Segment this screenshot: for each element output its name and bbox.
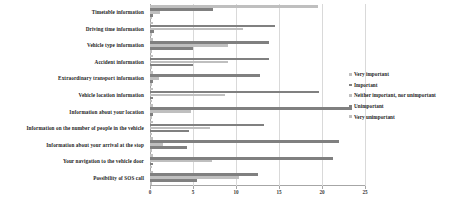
bar-group xyxy=(150,120,365,137)
legend-item[interactable]: Neither important, nor unimportant xyxy=(349,90,469,101)
bar xyxy=(150,146,187,149)
legend-label: Very unimportant xyxy=(354,114,395,120)
bar-group xyxy=(150,87,365,104)
axis-tick-label: 5 xyxy=(192,189,195,195)
axis-tick-label: 10 xyxy=(233,189,238,195)
category-label: Information about your arrival at the st… xyxy=(0,142,144,148)
bar xyxy=(150,182,152,185)
chart-legend: Very importantImportantNeither important… xyxy=(349,69,469,122)
legend-item[interactable]: Very important xyxy=(349,69,469,80)
legend-swatch-icon xyxy=(349,115,352,118)
bar xyxy=(150,149,152,152)
category-axis-labels: Timetable informationDriving time inform… xyxy=(0,4,147,186)
bar-group xyxy=(150,21,365,38)
bar-group xyxy=(150,54,365,71)
axis-tick-label: 0 xyxy=(149,189,152,195)
legend-item[interactable]: Important xyxy=(349,80,469,91)
bar-group xyxy=(150,70,365,87)
legend-item[interactable]: Unimportant xyxy=(349,101,469,112)
legend-label: Unimportant xyxy=(354,103,384,109)
bar xyxy=(150,116,152,119)
bar xyxy=(150,28,243,31)
category-label: Possibility of SOS call xyxy=(0,175,144,181)
category-label: Vehicle type information xyxy=(0,42,144,48)
category-label: Information about your location xyxy=(0,109,144,115)
bar-group xyxy=(150,153,365,170)
legend-swatch-icon xyxy=(349,94,352,97)
bar xyxy=(150,83,152,86)
bar-group xyxy=(150,169,365,186)
category-label: Extraordinary transport information xyxy=(0,75,144,81)
category-label: Information on the number of people in t… xyxy=(0,125,144,131)
legend-label: Very important xyxy=(354,71,389,77)
bar xyxy=(150,17,152,20)
category-label: Driving time information xyxy=(0,26,144,32)
bar xyxy=(150,47,193,50)
category-label: Your navigation to the vehicle door xyxy=(0,158,144,164)
bar xyxy=(150,66,152,69)
axis-tick-label: 20 xyxy=(319,189,324,195)
bar-group xyxy=(150,4,365,21)
bar xyxy=(150,100,152,103)
bar xyxy=(150,94,225,97)
bar xyxy=(150,166,152,169)
x-axis-ticks: 0510152025 xyxy=(150,186,365,198)
chart-container: Timetable informationDriving time inform… xyxy=(0,0,470,212)
bar xyxy=(150,50,152,53)
legend-item[interactable]: Very unimportant xyxy=(349,111,469,122)
legend-swatch-icon xyxy=(349,84,352,87)
bar xyxy=(150,179,197,182)
bar-group xyxy=(150,103,365,120)
category-label: Timetable information xyxy=(0,9,144,15)
bar xyxy=(150,110,191,113)
bar-group xyxy=(150,136,365,153)
bar xyxy=(150,140,339,143)
legend-label: Important xyxy=(354,82,378,88)
legend-swatch-icon xyxy=(349,105,352,108)
bar xyxy=(150,74,260,77)
bar xyxy=(150,130,189,133)
bar xyxy=(150,64,193,67)
axis-tick-label: 25 xyxy=(362,189,367,195)
legend-swatch-icon xyxy=(349,73,352,76)
bar xyxy=(150,160,212,163)
bar xyxy=(150,33,152,36)
axis-tick-label: 15 xyxy=(276,189,281,195)
bar-group xyxy=(150,37,365,54)
plot-area xyxy=(150,4,365,186)
legend-label: Neither important, nor unimportant xyxy=(354,92,436,98)
category-label: Vehicle location information xyxy=(0,92,144,98)
bar xyxy=(150,133,152,136)
category-label: Accident information xyxy=(0,59,144,65)
